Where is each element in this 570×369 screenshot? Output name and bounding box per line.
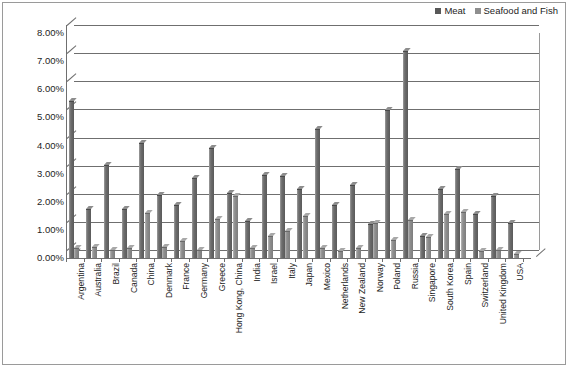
bar-body xyxy=(403,51,408,258)
bar-meat xyxy=(455,169,460,258)
y-axis-tick-label: 2.00% xyxy=(37,197,64,207)
x-axis-category-label: Netherlands xyxy=(341,263,350,309)
x-axis-category-label: India xyxy=(253,263,262,282)
bar-body xyxy=(245,221,250,258)
bar-meat xyxy=(209,148,214,258)
x-axis-category-label: Italy xyxy=(288,263,297,279)
bar-meat xyxy=(139,143,144,258)
bar-body xyxy=(197,250,202,258)
bar-body xyxy=(473,214,478,258)
bar-body xyxy=(350,185,355,258)
x-axis-tick xyxy=(259,258,260,262)
bar-body xyxy=(86,209,91,258)
bar-body xyxy=(233,196,238,258)
y-axis-tick-label: 6.00% xyxy=(37,85,64,95)
plot-area: 0.00%1.00%2.00%3.00%4.00%5.00%6.00%7.00%… xyxy=(0,0,570,369)
bar-body xyxy=(338,251,343,258)
bar-body xyxy=(508,223,513,258)
bar-body xyxy=(373,223,378,258)
bar-body xyxy=(408,220,413,258)
bar-meat xyxy=(245,221,250,258)
bar-body xyxy=(157,195,162,258)
x-axis-tick xyxy=(470,258,471,262)
x-axis-category-label: New Zealand xyxy=(358,263,367,314)
x-axis-category-label: Argentina xyxy=(77,263,86,300)
bar-meat xyxy=(122,209,127,258)
bar-body xyxy=(104,165,109,258)
bar-seafood xyxy=(268,236,273,259)
x-axis-tick xyxy=(84,258,85,262)
x-axis-category-label: Spain xyxy=(464,263,473,285)
bar-body xyxy=(285,231,290,258)
bar-meat xyxy=(174,205,179,258)
bar-body xyxy=(391,240,396,258)
x-axis-category-label: China xyxy=(147,263,156,285)
bar-meat xyxy=(297,189,302,258)
bar-meat xyxy=(473,214,478,258)
y-axis-tick-label: 4.00% xyxy=(37,141,64,151)
y-axis-tick-label: 1.00% xyxy=(37,225,64,235)
bar-meat xyxy=(508,223,513,258)
bar-body xyxy=(127,248,132,258)
x-axis-category-label: Germany xyxy=(200,263,209,298)
bar-body xyxy=(280,176,285,258)
bar-body xyxy=(356,248,361,258)
x-axis-tick xyxy=(505,258,506,262)
bar-body xyxy=(426,237,431,258)
bar-seafood xyxy=(215,219,220,258)
bar-seafood xyxy=(180,241,185,258)
bar-seafood xyxy=(426,237,431,258)
x-axis-category-label: Norway xyxy=(376,263,385,292)
bar-meat xyxy=(350,185,355,258)
bar-meat xyxy=(438,189,443,258)
x-axis-tick xyxy=(295,258,296,262)
x-axis-tick xyxy=(119,258,120,262)
bar-seafood xyxy=(373,223,378,258)
x-axis-tick xyxy=(453,258,454,262)
bar-body xyxy=(215,219,220,258)
bar-meat xyxy=(227,193,232,258)
bar-body xyxy=(368,224,373,258)
x-axis-tick xyxy=(101,258,102,262)
bar-body xyxy=(74,248,79,258)
y-axis-tick-label: 0.00% xyxy=(37,253,64,263)
bar-body xyxy=(180,241,185,258)
bar-body xyxy=(438,189,443,258)
plot-right-edge xyxy=(539,33,540,250)
x-axis-category-labels: ArgentinaAustraliaBrazilCanadaChinaDenma… xyxy=(66,258,531,368)
bar-meat xyxy=(368,224,373,258)
bar-seafood xyxy=(391,240,396,258)
x-axis-category-label: United Kingdom xyxy=(499,263,508,324)
bar-body xyxy=(174,205,179,258)
bar-meat xyxy=(86,209,91,258)
bar-meat xyxy=(262,175,267,258)
bar-body xyxy=(444,214,449,258)
x-axis-tick xyxy=(488,258,489,262)
x-axis-category-label: South Korea xyxy=(446,263,455,311)
x-axis-tick xyxy=(400,258,401,262)
bar-body xyxy=(250,248,255,258)
bar-meat xyxy=(192,178,197,258)
bar-seafood xyxy=(197,250,202,258)
x-axis-category-label: USA xyxy=(516,263,525,281)
bar-meat xyxy=(403,51,408,258)
bar-seafood xyxy=(338,251,343,258)
x-axis-tick xyxy=(347,258,348,262)
y-axis-tick-label: 3.00% xyxy=(37,169,64,179)
bar-body xyxy=(227,193,232,258)
bar-seafood xyxy=(250,248,255,258)
bar-body xyxy=(385,110,390,258)
bar-body xyxy=(303,216,308,258)
x-axis-tick xyxy=(435,258,436,262)
x-axis-tick xyxy=(365,258,366,262)
x-axis-category-label: Singapore xyxy=(428,263,437,302)
bar-seafood xyxy=(320,248,325,258)
bar-body xyxy=(145,213,150,258)
x-axis-category-label: Poland xyxy=(393,263,402,290)
bar-meat xyxy=(332,205,337,258)
chart-container: Meat Seafood and Fish 0.00%1.00%2.00%3.0… xyxy=(0,0,570,369)
bar-body xyxy=(139,143,144,258)
y-axis-tick-label: 8.00% xyxy=(37,28,64,38)
bar-body xyxy=(496,250,501,258)
bar-body xyxy=(315,129,320,258)
